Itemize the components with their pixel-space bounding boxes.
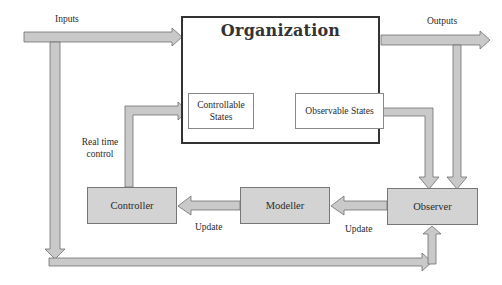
outputs-branch-down-arrow <box>447 45 467 189</box>
observer-label: Observer <box>413 201 451 212</box>
real-time-label-line1: Real time <box>82 137 119 147</box>
controllable-states-box: Controllable States <box>188 93 254 129</box>
modeller-to-controller-arrow <box>178 196 240 215</box>
controllable-states-label: Controllable States <box>192 99 250 123</box>
real-time-control-arrow <box>125 102 188 187</box>
bottom-feed-arrow <box>49 253 432 271</box>
modeller-box: Modeller <box>240 187 330 224</box>
observable-states-arrow <box>383 108 439 189</box>
inputs-label: Inputs <box>55 14 79 24</box>
update-left-label: Update <box>195 222 222 232</box>
inputs-branch-down-arrow <box>45 42 65 259</box>
inputs-arrow <box>24 28 182 46</box>
controller-label: Controller <box>110 200 153 211</box>
observable-states-label: Observable States <box>305 105 373 117</box>
update-right-label: Update <box>345 224 372 234</box>
observer-to-modeller-arrow <box>331 196 387 215</box>
real-time-label-line2: control <box>87 149 114 159</box>
observable-states-box: Observable States <box>295 93 384 129</box>
controller-box: Controller <box>87 187 177 224</box>
organization-title: Organization <box>221 21 340 40</box>
real-time-control-label: Real time control <box>79 136 121 160</box>
outputs-label: Outputs <box>427 16 457 26</box>
modeller-label: Modeller <box>266 200 305 211</box>
observer-box: Observer <box>387 188 478 225</box>
outputs-arrow <box>381 31 490 49</box>
